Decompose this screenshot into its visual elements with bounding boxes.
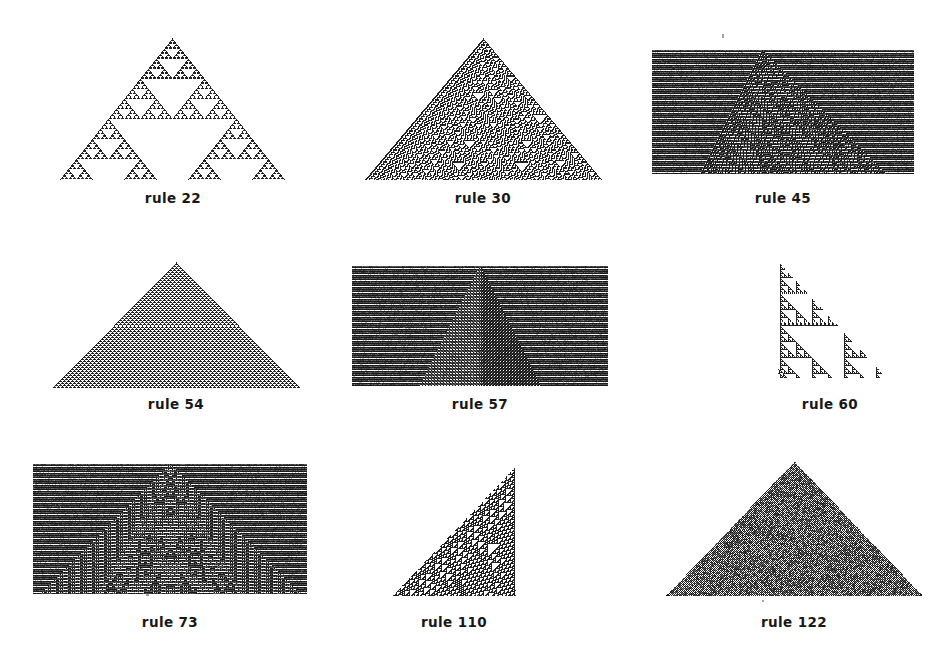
ca-evolution-rule-73 [33, 464, 307, 594]
panel-label-rule-122: rule 122 [660, 614, 928, 630]
panel-label-rule-110: rule 110 [388, 614, 520, 630]
ca-evolution-rule-45 [652, 50, 914, 174]
ca-panel-122: rule 122 [660, 458, 928, 634]
ca-panel-110: rule 110 [388, 462, 520, 634]
ca-panel-60: rule 60 [772, 258, 888, 416]
ca-panel-54: rule 54 [42, 256, 310, 416]
panel-label-rule-60: rule 60 [772, 396, 888, 412]
panel-label-rule-30: rule 30 [355, 190, 611, 206]
ca-evolution-rule-57 [352, 266, 608, 386]
scan-speck [146, 594, 149, 596]
ca-panel-57: rule 57 [350, 262, 610, 416]
ca-evolution-rule-30 [363, 38, 603, 180]
ca-evolution-rule-22 [58, 38, 286, 180]
panel-label-rule-45: rule 45 [650, 190, 916, 206]
ca-panel-22: rule 22 [48, 32, 298, 210]
scan-speck [722, 34, 724, 38]
panel-label-rule-73: rule 73 [30, 614, 310, 630]
ca-evolution-rule-122 [666, 462, 922, 596]
ca-evolution-rule-54 [52, 262, 300, 388]
panel-label-rule-57: rule 57 [350, 396, 610, 412]
scan-speck [762, 600, 764, 602]
ca-evolution-rule-60 [778, 262, 886, 378]
ca-panel-73: rule 73 [30, 460, 310, 634]
figure-canvas: rule 22rule 30rule 45rule 54rule 57rule … [0, 0, 951, 664]
panel-label-rule-54: rule 54 [42, 396, 310, 412]
ca-panel-45: rule 45 [650, 44, 916, 210]
ca-panel-30: rule 30 [355, 32, 611, 210]
panel-label-rule-22: rule 22 [48, 190, 298, 206]
ca-evolution-rule-110 [392, 466, 516, 596]
